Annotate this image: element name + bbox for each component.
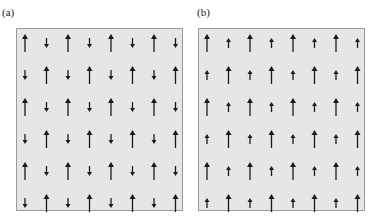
arrow-up-icon xyxy=(355,66,361,84)
arrow-up-icon xyxy=(130,130,136,148)
arrow-down-icon xyxy=(152,198,157,208)
panel-a-label: (a) xyxy=(2,6,14,18)
arrow-down-icon xyxy=(66,134,71,144)
arrow-up-icon xyxy=(151,162,157,180)
arrow-up-icon xyxy=(205,198,210,208)
arrow-down-icon xyxy=(173,102,178,112)
panel-b-label: (b) xyxy=(197,6,210,18)
arrow-up-icon xyxy=(355,130,361,148)
arrow-up-icon xyxy=(312,130,318,148)
arrow-up-icon xyxy=(65,98,71,116)
arrow-up-icon xyxy=(269,130,275,148)
arrow-up-icon xyxy=(65,162,71,180)
arrow-up-icon xyxy=(173,194,179,212)
arrow-up-icon xyxy=(290,98,296,116)
arrow-down-icon xyxy=(130,38,135,48)
arrow-up-icon xyxy=(291,198,296,208)
arrow-down-icon xyxy=(66,198,71,208)
arrow-down-icon xyxy=(23,134,28,144)
arrow-up-icon xyxy=(291,134,296,144)
arrow-up-icon xyxy=(312,194,318,212)
arrow-down-icon xyxy=(152,70,157,80)
arrow-up-icon xyxy=(130,194,136,212)
arrow-down-icon xyxy=(173,38,178,48)
arrow-up-icon xyxy=(151,98,157,116)
arrow-down-icon xyxy=(173,166,178,176)
arrow-down-icon xyxy=(66,70,71,80)
arrow-down-icon xyxy=(87,166,92,176)
arrow-up-icon xyxy=(269,38,274,48)
arrow-up-icon xyxy=(226,38,231,48)
arrow-up-icon xyxy=(226,130,232,148)
arrow-up-icon xyxy=(204,98,210,116)
arrow-up-icon xyxy=(247,34,253,52)
arrow-up-icon xyxy=(173,66,179,84)
arrow-up-icon xyxy=(291,70,296,80)
arrow-up-icon xyxy=(226,194,232,212)
arrow-up-icon xyxy=(290,162,296,180)
arrow-down-icon xyxy=(23,70,28,80)
arrow-up-icon xyxy=(333,34,339,52)
arrow-up-icon xyxy=(22,98,28,116)
arrow-down-icon xyxy=(44,166,49,176)
arrow-up-icon xyxy=(333,162,339,180)
arrow-up-icon xyxy=(226,66,232,84)
arrow-up-icon xyxy=(269,102,274,112)
arrow-up-icon xyxy=(226,102,231,112)
panel-a-arrow-grid xyxy=(17,29,184,212)
arrow-up-icon xyxy=(355,194,361,212)
arrow-up-icon xyxy=(87,194,93,212)
arrow-up-icon xyxy=(355,166,360,176)
arrow-down-icon xyxy=(130,166,135,176)
arrow-up-icon xyxy=(248,134,253,144)
arrow-up-icon xyxy=(333,98,339,116)
arrow-up-icon xyxy=(108,34,114,52)
arrow-up-icon xyxy=(173,130,179,148)
arrow-up-icon xyxy=(269,194,275,212)
arrow-up-icon xyxy=(22,162,28,180)
arrow-up-icon xyxy=(334,198,339,208)
arrow-up-icon xyxy=(312,38,317,48)
arrow-up-icon xyxy=(355,38,360,48)
arrow-down-icon xyxy=(109,134,114,144)
arrow-up-icon xyxy=(87,66,93,84)
arrow-up-icon xyxy=(312,166,317,176)
arrow-up-icon xyxy=(226,166,231,176)
arrow-down-icon xyxy=(109,198,114,208)
arrow-up-icon xyxy=(204,162,210,180)
arrow-up-icon xyxy=(334,70,339,80)
arrow-up-icon xyxy=(87,130,93,148)
arrow-up-icon xyxy=(44,66,50,84)
arrow-up-icon xyxy=(247,98,253,116)
arrow-up-icon xyxy=(312,102,317,112)
arrow-up-icon xyxy=(108,162,114,180)
arrow-up-icon xyxy=(44,130,50,148)
panel-b-ferrimagnetic xyxy=(198,28,365,211)
arrow-down-icon xyxy=(87,38,92,48)
arrow-up-icon xyxy=(269,166,274,176)
arrow-up-icon xyxy=(205,70,210,80)
arrow-up-icon xyxy=(312,66,318,84)
arrow-down-icon xyxy=(44,102,49,112)
arrow-up-icon xyxy=(248,198,253,208)
arrow-down-icon xyxy=(23,198,28,208)
arrow-up-icon xyxy=(355,102,360,112)
arrow-up-icon xyxy=(151,34,157,52)
arrow-up-icon xyxy=(248,70,253,80)
panel-a-antiferromagnetic xyxy=(16,28,183,211)
panel-b-arrow-grid xyxy=(199,29,366,212)
arrow-up-icon xyxy=(334,134,339,144)
arrow-up-icon xyxy=(65,34,71,52)
arrow-up-icon xyxy=(290,34,296,52)
arrow-down-icon xyxy=(152,134,157,144)
arrow-down-icon xyxy=(109,70,114,80)
arrow-up-icon xyxy=(130,66,136,84)
arrow-up-icon xyxy=(205,134,210,144)
arrow-up-icon xyxy=(247,162,253,180)
arrow-up-icon xyxy=(44,194,50,212)
arrow-up-icon xyxy=(204,34,210,52)
arrow-down-icon xyxy=(44,38,49,48)
arrow-down-icon xyxy=(87,102,92,112)
arrow-up-icon xyxy=(269,66,275,84)
arrow-up-icon xyxy=(108,98,114,116)
